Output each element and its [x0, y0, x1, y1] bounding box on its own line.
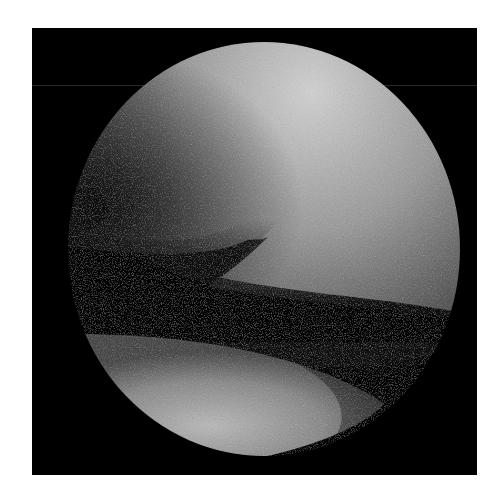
arthroscopic-image — [68, 42, 460, 456]
endoscope-view — [68, 42, 460, 456]
image-frame — [32, 28, 477, 475]
